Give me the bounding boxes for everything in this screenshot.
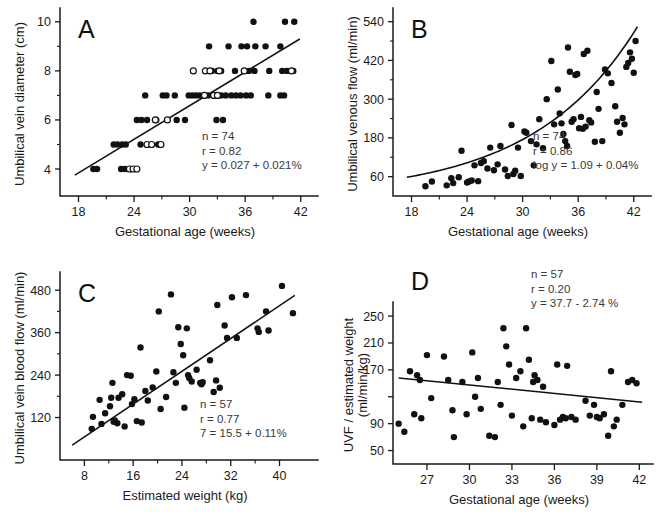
x-axis-title: Gestational age (weeks)	[449, 492, 589, 507]
data-point	[256, 329, 262, 335]
data-point	[128, 373, 134, 379]
data-point	[238, 43, 244, 49]
data-point	[619, 402, 625, 408]
data-point	[244, 43, 250, 49]
data-point	[175, 324, 181, 330]
stats-annotation-c: n = 57r = 0.777 = 15.5 + 0.11%	[200, 398, 287, 439]
data-point	[224, 335, 230, 341]
data-point	[587, 412, 593, 418]
x-tick-label: 36	[547, 473, 561, 487]
data-point	[407, 368, 413, 374]
stat-line: n = 74	[533, 130, 566, 142]
stat-line: log y = 1.09 + 0.04%	[533, 159, 639, 171]
x-tick-label: 24	[127, 205, 141, 219]
data-point	[565, 44, 571, 50]
x-tick-label: 30	[183, 205, 197, 219]
data-point	[232, 68, 238, 74]
data-point	[214, 92, 220, 98]
x-tick-label: 16	[126, 469, 140, 483]
data-point	[512, 168, 518, 174]
data-point	[201, 92, 207, 98]
data-point	[572, 416, 578, 422]
data-point	[265, 92, 271, 98]
data-point	[221, 322, 227, 328]
data-point	[225, 43, 231, 49]
data-point	[180, 352, 186, 358]
panel-letter-d: D	[411, 267, 429, 295]
data-point	[290, 310, 296, 316]
data-point	[282, 19, 288, 25]
data-point	[108, 395, 114, 401]
data-point	[449, 407, 455, 413]
data-point	[418, 415, 424, 421]
data-point	[248, 92, 254, 98]
data-point	[281, 92, 287, 98]
data-point	[509, 412, 515, 418]
data-point	[491, 167, 497, 173]
data-point	[548, 58, 554, 64]
series-a-filled	[90, 19, 297, 173]
data-point	[601, 411, 607, 417]
x-tick-label: 40	[273, 469, 287, 483]
y-axis-title: UVF / estimated weight	[341, 317, 356, 452]
stats-annotation-b: n = 74r = 0.86log y = 1.09 + 0.04%	[533, 130, 639, 171]
data-point	[475, 375, 481, 381]
data-point	[90, 414, 96, 420]
data-point	[582, 123, 588, 129]
data-point	[102, 410, 108, 416]
data-point	[588, 119, 594, 125]
panel-c: 120240360480816243240Estimated weight (k…	[0, 258, 336, 517]
data-point	[279, 283, 285, 289]
data-point	[213, 377, 219, 383]
data-point	[142, 92, 148, 98]
data-point	[237, 92, 243, 98]
data-point	[523, 325, 529, 331]
data-point	[554, 361, 560, 367]
data-point	[556, 110, 562, 116]
data-point	[199, 379, 205, 385]
data-point	[428, 395, 434, 401]
data-point	[134, 166, 140, 172]
data-point	[206, 43, 212, 49]
x-axis-title: Gestational age (weeks)	[115, 224, 255, 239]
x-tick-label: 42	[627, 205, 641, 219]
data-point	[611, 423, 617, 429]
data-point	[121, 423, 127, 429]
data-point	[241, 68, 247, 74]
y-tick-label: 240	[30, 369, 51, 383]
data-point	[164, 117, 170, 123]
data-point	[137, 344, 143, 350]
panel-letter-a: A	[78, 15, 95, 43]
data-point	[277, 43, 283, 49]
data-point	[537, 416, 543, 422]
data-point	[94, 166, 100, 172]
data-point	[484, 165, 490, 171]
stat-line: n = 74	[202, 130, 235, 142]
x-tick-label: 39	[590, 473, 604, 487]
data-point	[551, 121, 557, 127]
data-point	[563, 415, 569, 421]
data-point	[417, 377, 423, 383]
data-point	[163, 394, 169, 400]
x-tick-label: 24	[460, 205, 474, 219]
data-point	[441, 353, 447, 359]
data-point	[149, 141, 155, 147]
axes-b: 601803004205401824303642	[363, 8, 651, 219]
regression-fit-b	[407, 27, 638, 178]
data-point	[401, 429, 407, 435]
data-point	[515, 144, 521, 150]
data-point	[633, 380, 639, 386]
data-point	[217, 385, 223, 391]
y-tick-label: 8	[44, 64, 51, 78]
data-point	[173, 117, 179, 123]
stats-annotation-d: n = 57r = 0.20y = 37.7 - 2.74 %	[531, 268, 618, 309]
data-point	[551, 422, 557, 428]
data-point	[592, 139, 598, 145]
data-point	[252, 43, 258, 49]
y-tick-label: 180	[363, 131, 384, 145]
x-tick-label: 18	[405, 205, 419, 219]
figure-panel-grid: 468101824303642Gestational age (weeks)Um…	[0, 0, 671, 517]
data-point	[223, 92, 229, 98]
data-point	[451, 434, 457, 440]
data-point	[619, 115, 625, 121]
